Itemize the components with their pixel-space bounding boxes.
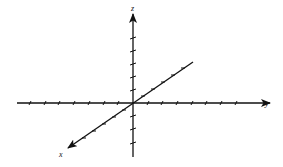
y-axis: y [17, 99, 270, 108]
y-axis-label: y [264, 99, 269, 108]
x-axis-label: x [58, 150, 63, 159]
x-axis: x [58, 62, 193, 159]
3d-axes-diagram: y z x [0, 0, 283, 167]
z-axis-label: z [130, 4, 135, 13]
z-axis: z [130, 4, 136, 157]
